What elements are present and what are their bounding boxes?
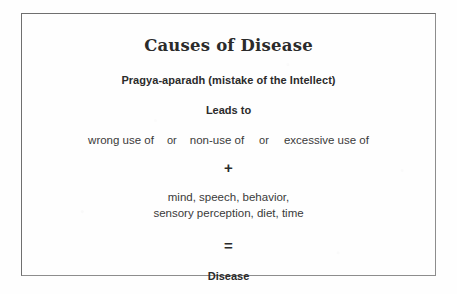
factors-block: mind, speech, behavior, sensory percepti… [22,190,435,221]
causes-of-disease-figure: Causes of Disease Pragya-aparadh (mistak… [21,13,436,276]
figure-subtitle-pragya-aparadh: Pragya-aparadh (mistake of the Intellect… [22,74,435,86]
equals-operator-symbol: = [22,238,435,253]
factors-line-two: sensory perception, diet, time [22,206,435,222]
figure-title: Causes of Disease [22,36,435,55]
or-connector-first: or [154,134,190,146]
use-term-non-use: non-use of [190,134,244,146]
plus-operator-symbol: + [22,160,435,175]
use-term-wrong-use: wrong use of [88,134,154,146]
or-connector-second: or [244,134,284,146]
uses-row: wrong use of or non-use of or excessive … [88,134,369,146]
leads-to-label: Leads to [22,104,435,116]
result-disease-label: Disease [22,270,435,282]
factors-line-one: mind, speech, behavior, [22,190,435,206]
use-term-excessive-use: excessive use of [284,134,369,146]
figure-page: Causes of Disease Pragya-aparadh (mistak… [0,0,457,294]
